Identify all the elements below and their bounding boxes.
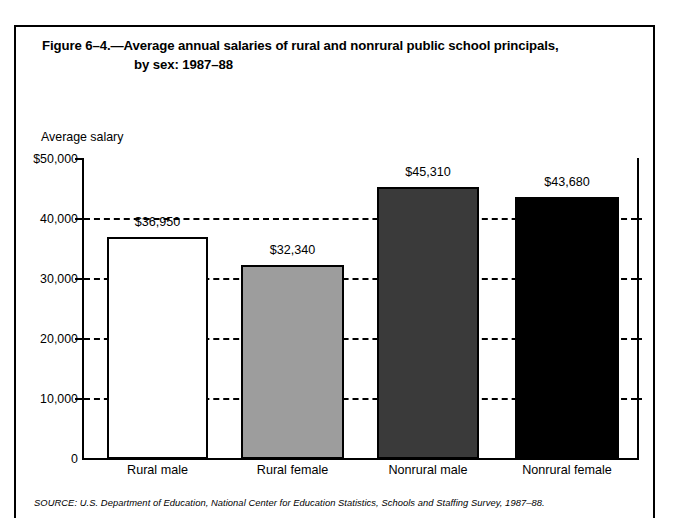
source-note: SOURCE: U.S. Department of Education, Na… <box>34 497 545 508</box>
figure-title-line-2: by sex: 1987–88 <box>34 55 614 74</box>
figure-title: Figure 6–4.—Average annual salaries of r… <box>34 36 614 74</box>
figure-frame <box>14 25 655 518</box>
figure-title-line-1: Figure 6–4.—Average annual salaries of r… <box>34 36 614 55</box>
y-axis-label: Average salary <box>41 130 123 144</box>
